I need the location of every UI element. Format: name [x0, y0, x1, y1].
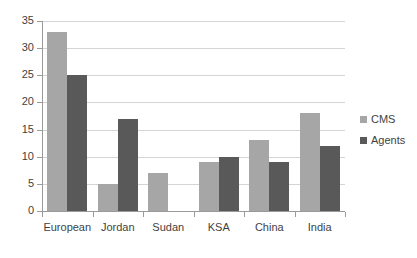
- bar-cms-jordan: [98, 184, 118, 211]
- bar-cms-china: [249, 140, 269, 211]
- x-axis-category-label: Jordan: [93, 220, 144, 236]
- legend-label: CMS: [371, 113, 395, 125]
- bar-cms-ksa: [199, 162, 219, 211]
- bar-groups: [42, 21, 345, 211]
- y-axis-tick-label: 35: [4, 15, 34, 26]
- x-axis-category-label: KSA: [194, 220, 245, 236]
- y-axis-tick: [37, 130, 42, 131]
- x-axis-category-label: European: [42, 220, 93, 236]
- bar-agents-india: [320, 146, 340, 211]
- y-axis-tick-label: 20: [4, 96, 34, 107]
- x-axis-category-label: China: [244, 220, 295, 236]
- x-axis-tick: [194, 212, 195, 217]
- x-axis-ticks: [42, 212, 345, 218]
- bar-chart: 05101520253035 EuropeanJordanSudanKSAChi…: [0, 0, 417, 258]
- bar-cms-european: [47, 32, 67, 211]
- x-axis-tick: [143, 212, 144, 217]
- y-axis-tick-label: 15: [4, 124, 34, 135]
- bar-group: [194, 21, 245, 211]
- bar-group: [143, 21, 194, 211]
- bar-group: [244, 21, 295, 211]
- legend-item-cms: CMS: [360, 113, 417, 125]
- y-axis-labels: 05101520253035: [0, 0, 34, 258]
- bar-cms-india: [300, 113, 320, 211]
- y-axis-tick-label: 10: [4, 151, 34, 162]
- bar-agents-china: [269, 162, 289, 211]
- bar-group: [93, 21, 144, 211]
- bar-agents-ksa: [219, 157, 239, 211]
- legend-swatch-icon: [360, 116, 367, 123]
- y-axis-tick-label: 25: [4, 69, 34, 80]
- legend-swatch-icon: [360, 137, 367, 144]
- y-axis-tick: [37, 102, 42, 103]
- y-axis-tick: [37, 21, 42, 22]
- bar-group: [295, 21, 346, 211]
- x-axis-tick: [93, 212, 94, 217]
- x-axis-labels: EuropeanJordanSudanKSAChinaIndia: [42, 220, 345, 236]
- chart-legend: CMSAgents: [360, 113, 417, 155]
- y-axis-tick: [37, 157, 42, 158]
- y-axis-tick: [37, 184, 42, 185]
- bar-group: [42, 21, 93, 211]
- x-axis-tick: [345, 212, 346, 217]
- x-axis-tick: [42, 212, 43, 217]
- legend-label: Agents: [371, 134, 405, 146]
- bar-agents-jordan: [118, 119, 138, 211]
- y-axis-tick-label: 5: [4, 178, 34, 189]
- x-axis-tick: [295, 212, 296, 217]
- y-axis-tick: [37, 75, 42, 76]
- bar-agents-european: [67, 75, 87, 211]
- x-axis-category-label: India: [295, 220, 346, 236]
- y-axis-tick: [37, 48, 42, 49]
- bar-cms-sudan: [148, 173, 168, 211]
- y-axis-tick-label: 0: [4, 205, 34, 216]
- x-axis-tick: [244, 212, 245, 217]
- y-axis-tick: [37, 211, 42, 212]
- y-axis-tick-label: 30: [4, 42, 34, 53]
- legend-item-agents: Agents: [360, 134, 417, 146]
- x-axis-category-label: Sudan: [143, 220, 194, 236]
